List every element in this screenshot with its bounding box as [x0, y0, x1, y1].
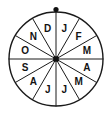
sector-label-jun: J [62, 84, 68, 95]
sector-label-dec: D [44, 23, 51, 34]
sector-label-apr: A [83, 62, 90, 73]
sector-label-may: M [74, 76, 82, 87]
month-spinner-figure: J F M A M J J A S O N D [0, 0, 112, 118]
sector-label-oct: O [21, 45, 29, 56]
sector-label-aug: A [30, 76, 37, 87]
top-marker-dot [53, 7, 58, 12]
wheel-center-hub [53, 56, 59, 62]
sector-label-jan: J [62, 23, 68, 34]
sector-label-mar: M [83, 45, 91, 56]
sector-label-jul: J [45, 84, 51, 95]
sector-label-nov: N [30, 31, 37, 42]
sector-label-feb: F [76, 31, 82, 42]
sector-label-sep: S [22, 62, 29, 73]
spinner-wheel-graphic: J F M A M J J A S O N D [0, 0, 112, 118]
